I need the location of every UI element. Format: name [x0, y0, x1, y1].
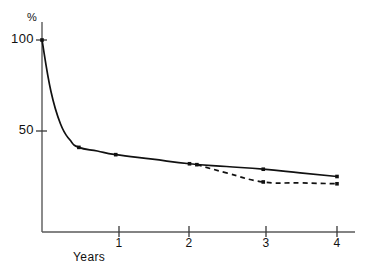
data-point-markers-solid: [40, 38, 339, 178]
x-axis-tick-label-3: 3: [257, 236, 275, 250]
data-point-marker: [261, 180, 265, 184]
data-point-marker: [195, 163, 199, 167]
data-point-marker: [188, 162, 192, 166]
y-axis-unit-label: %: [27, 11, 37, 23]
y-axis-tick-label-100: 100: [2, 31, 34, 46]
data-point-marker: [40, 38, 44, 42]
chart-figure: 100 50 % 1 2 3 4 Years: [0, 0, 367, 269]
data-point-marker: [261, 167, 265, 171]
chart-plot-area: [0, 0, 367, 269]
x-axis-tick-label-4: 4: [328, 236, 346, 250]
data-point-marker: [335, 175, 339, 179]
x-axis-tick-label-2: 2: [180, 236, 198, 250]
series-line-solid: [42, 40, 337, 177]
data-point-marker: [335, 182, 339, 186]
x-axis-tick-label-1: 1: [110, 236, 128, 250]
y-axis-tick-label-50: 50: [10, 122, 34, 137]
data-point-marker: [77, 146, 81, 150]
x-axis-title: Years: [73, 250, 105, 264]
data-point-marker: [114, 153, 118, 157]
